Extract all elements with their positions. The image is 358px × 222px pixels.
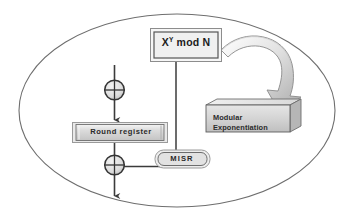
node-xor-top[interactable] xyxy=(105,80,125,100)
node-xymodn[interactable] xyxy=(151,29,222,62)
node-round-register[interactable] xyxy=(73,123,168,143)
diagram-graphics xyxy=(0,0,358,222)
node-modular-exponentiation[interactable] xyxy=(206,99,301,132)
node-misr[interactable] xyxy=(155,150,210,168)
node-xor-bottom[interactable] xyxy=(105,155,125,175)
diagram-canvas: XY mod N Round register Modular Exponent… xyxy=(0,0,358,222)
